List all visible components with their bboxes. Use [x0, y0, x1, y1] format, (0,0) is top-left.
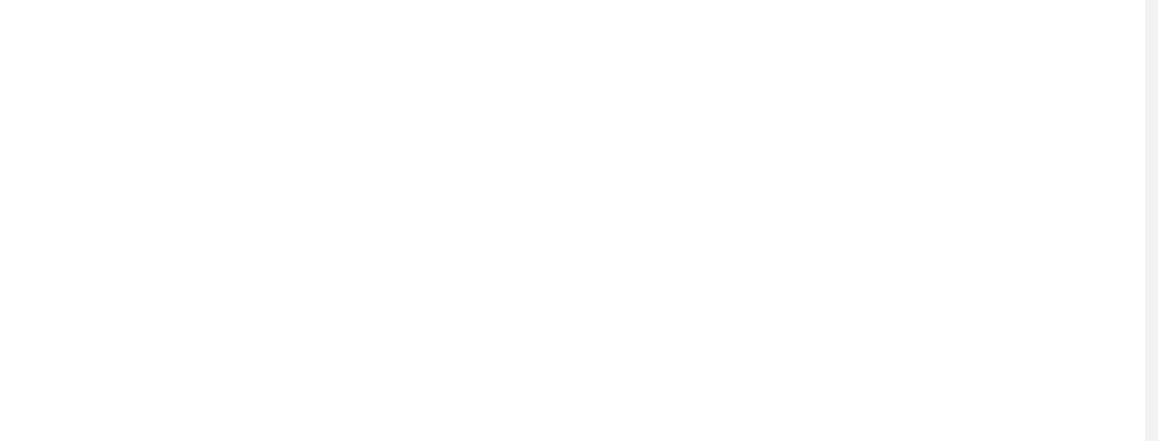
perspective-canvas[interactable]: [0, 0, 1158, 441]
right-panel-strip: [1145, 0, 1158, 441]
